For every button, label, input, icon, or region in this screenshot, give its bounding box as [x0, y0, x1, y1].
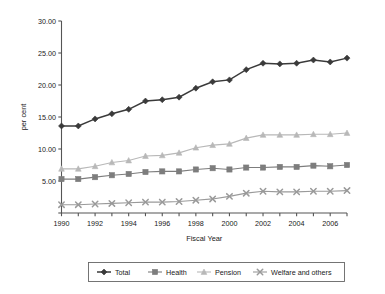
series-line	[62, 133, 348, 169]
marker-square	[152, 269, 157, 274]
marker-diamond	[344, 55, 350, 61]
marker-square	[176, 169, 181, 174]
marker-square	[143, 169, 148, 174]
y-axis-tick-label: 15.00	[38, 113, 56, 122]
x-axis-tick-label: 2004	[289, 219, 305, 228]
series-health	[59, 162, 350, 181]
marker-diamond	[327, 59, 333, 65]
x-axis-tick-label: 2002	[255, 219, 271, 228]
marker-diamond	[176, 94, 182, 100]
x-axis-tick-label: 1998	[188, 219, 204, 228]
series-pension	[59, 130, 350, 171]
y-axis-tick-labels: 5.0010.0015.0020.0025.0030.00	[38, 17, 56, 186]
marker-diamond	[193, 85, 199, 91]
y-axis-title: per cent	[19, 104, 28, 131]
series-total	[59, 55, 351, 129]
marker-diamond	[310, 57, 316, 63]
marker-square	[227, 167, 232, 172]
data-series-group	[59, 55, 351, 207]
marker-diamond	[92, 116, 98, 122]
series-line	[62, 58, 348, 126]
line-chart: 5.0010.0015.0020.0025.0030.00 1990199219…	[0, 0, 385, 294]
marker-square	[126, 171, 131, 176]
marker-square	[59, 176, 64, 181]
series-welfare-and-others	[59, 188, 350, 207]
y-axis-tick-label: 10.00	[38, 145, 56, 154]
marker-diamond	[277, 61, 283, 67]
x-axis-tick-label: 2000	[221, 219, 237, 228]
marker-square	[109, 173, 114, 178]
series-line	[62, 191, 348, 205]
marker-diamond	[75, 123, 81, 129]
marker-square	[210, 166, 215, 171]
x-axis-tick-label: 1990	[54, 219, 70, 228]
marker-diamond	[59, 123, 65, 129]
marker-diamond	[126, 106, 132, 112]
marker-square	[328, 164, 333, 169]
legend-label: Total	[115, 268, 131, 277]
x-axis-tick-label: 1996	[154, 219, 170, 228]
y-axis-tick-label: 30.00	[38, 17, 56, 26]
x-axis-tick-label: 2006	[322, 219, 338, 228]
y-axis-tick-label: 25.00	[38, 49, 56, 58]
marker-square	[311, 163, 316, 168]
chart-container: 5.0010.0015.0020.0025.0030.00 1990199219…	[0, 0, 385, 294]
marker-diamond	[294, 60, 300, 66]
marker-square	[277, 164, 282, 169]
series-line	[62, 165, 348, 179]
y-axis-tick-label: 5.00	[42, 177, 56, 186]
chart-legend: TotalHealthPensionWelfare and others	[89, 263, 345, 282]
marker-square	[76, 176, 81, 181]
marker-square	[294, 164, 299, 169]
legend-label: Welfare and others	[271, 268, 332, 277]
marker-square	[260, 165, 265, 170]
marker-diamond	[159, 97, 165, 103]
x-axis-title: Fiscal Year	[186, 234, 223, 243]
marker-square	[160, 169, 165, 174]
marker-diamond	[142, 98, 148, 104]
axis-lines	[62, 21, 348, 213]
legend-label: Pension	[215, 268, 241, 277]
marker-square	[244, 165, 249, 170]
x-axis-tick-label: 1992	[87, 219, 103, 228]
legend-label: Health	[166, 268, 187, 277]
marker-square	[193, 167, 198, 172]
x-axis-tick-label: 1994	[121, 219, 137, 228]
marker-diamond	[109, 111, 115, 117]
marker-diamond	[210, 79, 216, 85]
y-axis-tick-label: 20.00	[38, 81, 56, 90]
x-axis-tick-labels: 199019921994199619982000200220042006	[54, 219, 339, 228]
marker-square	[92, 175, 97, 180]
marker-diamond	[260, 60, 266, 66]
marker-square	[344, 162, 349, 167]
